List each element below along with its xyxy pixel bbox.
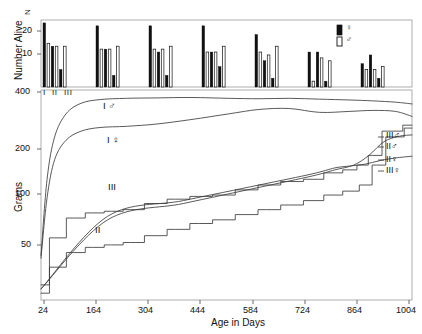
bar-III♀-724 bbox=[324, 81, 327, 87]
bar-III♂-864 bbox=[382, 67, 385, 87]
bar-I♀-24 bbox=[43, 23, 46, 87]
bar-III♀-164 bbox=[112, 75, 115, 87]
bar-III♀-444 bbox=[218, 67, 221, 87]
bar-II♂-584 bbox=[267, 55, 270, 87]
legend-female-symbol: ♀ bbox=[346, 24, 352, 32]
bar-I♀-724 bbox=[308, 52, 311, 87]
bar-II♂-24 bbox=[55, 46, 58, 87]
top-panel-ytick-10: 10 bbox=[22, 49, 32, 58]
xtick-24: 24 bbox=[38, 306, 48, 315]
right-label-II-male: II♂ bbox=[386, 142, 398, 151]
bar-II♀-864 bbox=[369, 55, 372, 87]
bar-I♀-864 bbox=[361, 64, 364, 87]
legend-male-symbol: ♂ bbox=[346, 36, 352, 44]
bottom-panel-ytick-100: 100 bbox=[15, 189, 30, 198]
curve-label-I-male: I ♂ bbox=[103, 101, 115, 111]
figure-root: Number Alive 20 10 N I II III ♀ ♂ Grams … bbox=[0, 0, 422, 334]
xtick-724: 724 bbox=[295, 306, 310, 315]
bar-III♂-24 bbox=[64, 46, 67, 87]
bar-I♂-584 bbox=[259, 52, 262, 87]
xtick-164: 164 bbox=[86, 306, 101, 315]
n-marker-label: N bbox=[24, 9, 32, 15]
bar-I♂-24 bbox=[47, 43, 50, 87]
x-axis-title: Age in Days bbox=[211, 318, 265, 328]
group-label-III: III bbox=[64, 89, 72, 97]
bar-II♂-164 bbox=[108, 49, 111, 87]
bar-II♀-164 bbox=[104, 49, 107, 87]
bar-I♂-864 bbox=[365, 70, 368, 87]
bar-I♂-164 bbox=[100, 49, 103, 87]
bar-III♀-24 bbox=[59, 70, 62, 87]
legend-swatch-female bbox=[337, 25, 342, 35]
bar-III♂-724 bbox=[329, 61, 332, 87]
bar-II♂-304 bbox=[161, 49, 164, 87]
xtick-444: 444 bbox=[190, 306, 205, 315]
bar-III♂-444 bbox=[223, 46, 226, 87]
xtick-1004: 1004 bbox=[396, 306, 416, 315]
bar-I♀-304 bbox=[149, 26, 152, 87]
curve-label-III: III bbox=[108, 182, 116, 192]
bar-II♀-444 bbox=[210, 52, 213, 87]
group-label-II: II bbox=[52, 89, 58, 97]
bar-I♀-164 bbox=[96, 26, 99, 87]
bottom-panel-ytick-400: 400 bbox=[15, 87, 30, 96]
bar-III♀-584 bbox=[271, 78, 274, 87]
legend-swatch-male bbox=[337, 37, 342, 46]
bar-II♂-864 bbox=[373, 70, 376, 87]
bar-III♂-304 bbox=[170, 46, 173, 87]
bottom-panel-ytick-200: 200 bbox=[15, 144, 30, 153]
top-panel-ytick-20: 20 bbox=[22, 26, 32, 35]
bar-II♀-724 bbox=[316, 52, 319, 87]
xtick-864: 864 bbox=[347, 306, 362, 315]
bar-III♂-164 bbox=[117, 46, 120, 87]
right-label-III-male: III♂ bbox=[386, 131, 400, 140]
bar-I♀-584 bbox=[255, 35, 258, 87]
curve-label-I-female: I ♀ bbox=[107, 135, 119, 145]
right-label-III-female: III♀ bbox=[386, 166, 400, 175]
bar-III♀-864 bbox=[377, 78, 380, 87]
bar-III♂-584 bbox=[276, 46, 279, 87]
right-label-II-female: II♀ bbox=[386, 155, 398, 164]
group-label-I: I bbox=[43, 89, 46, 97]
bar-II♂-724 bbox=[320, 58, 323, 87]
bar-I♀-444 bbox=[202, 26, 205, 87]
bottom-panel-ytick-50: 50 bbox=[21, 240, 31, 249]
bar-III♀-304 bbox=[165, 75, 168, 87]
xtick-584: 584 bbox=[243, 306, 258, 315]
chart-canvas bbox=[0, 0, 422, 334]
xtick-304: 304 bbox=[138, 306, 153, 315]
bar-II♀-24 bbox=[51, 46, 54, 87]
bar-II♀-304 bbox=[157, 52, 160, 87]
bar-II♂-444 bbox=[214, 52, 217, 87]
bar-I♂-304 bbox=[153, 49, 156, 87]
bar-II♀-584 bbox=[263, 61, 266, 87]
bar-I♂-444 bbox=[206, 52, 209, 87]
curve-label-II: II bbox=[95, 225, 100, 235]
bar-I♂-724 bbox=[312, 81, 315, 87]
